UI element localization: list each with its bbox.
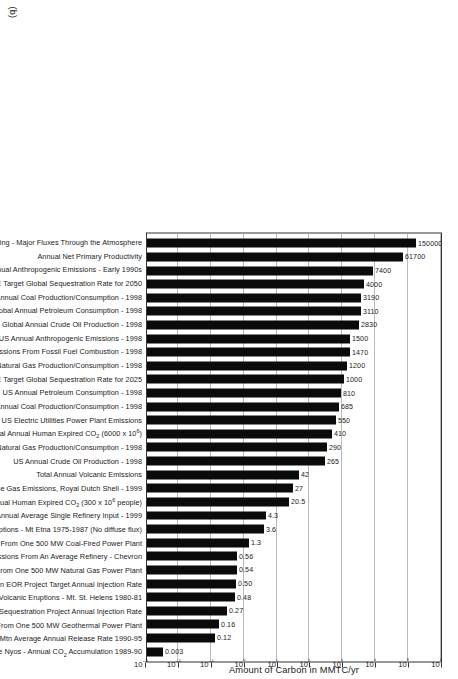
bar[interactable]: 42 [147, 470, 299, 479]
bar-value-label: 1200 [349, 361, 365, 369]
bar-slot: 265 [147, 454, 441, 468]
category-label: US Annual Crude Oil Production - 1998 [13, 456, 142, 465]
plot-area: 1500006170074004000319031102830150014701… [146, 232, 442, 662]
bar[interactable]: 0.50 [147, 579, 236, 588]
bar[interactable]: 27 [147, 483, 293, 492]
bar[interactable]: 61700 [147, 252, 403, 261]
bar-value-label: 1.3 [251, 538, 261, 546]
bar-value-label: 4.3 [269, 511, 279, 519]
bar-slot: 1500 [147, 331, 441, 345]
category-label: Weyburn EOR Project Target Annual Inject… [0, 579, 142, 588]
bar[interactable]: 0.16 [147, 619, 219, 628]
bar-value-label: 0.56 [239, 552, 253, 560]
bar[interactable]: 4000 [147, 279, 364, 288]
bar[interactable]: 1500 [147, 334, 350, 343]
bar-value-label: 150000 [418, 239, 441, 247]
category-slot: Annual Emissions From One 500 MW Geother… [3, 618, 145, 632]
bar[interactable]: 2830 [147, 320, 359, 329]
bar-slot: 290 [147, 440, 441, 454]
bar-slot: 0.54 [147, 563, 441, 577]
bar-value-label: 0.12 [217, 633, 231, 641]
category-label: US Annual Coal Production/Consumption - … [0, 401, 142, 410]
bar[interactable]: 0.56 [147, 551, 237, 560]
bar[interactable]: 290 [147, 442, 327, 451]
bar[interactable]: 3.6 [147, 524, 264, 533]
bar-value-label: 685 [341, 402, 353, 410]
bar-value-label: 1000 [346, 375, 362, 383]
category-slot: Global Annual Petroleum Consumption - 19… [3, 303, 145, 317]
category-label: Active Volcanic Eruptions - Mt Etna 1975… [0, 524, 142, 533]
category-label: US Annual Emissions From Fossil Fuel Com… [0, 347, 142, 356]
bar-slot: 1200 [147, 358, 441, 372]
bar[interactable]: 3190 [147, 293, 361, 302]
bar[interactable]: 1.3 [147, 538, 249, 547]
bar[interactable]: 685 [147, 402, 339, 411]
bar-slot: 0.50 [147, 576, 441, 590]
category-label: US DOE Target Global Sequestration Rate … [0, 278, 142, 287]
category-slot: Global Annual Coal Production/Consumptio… [3, 290, 145, 304]
category-slot: Total Annual Greenhouse Gas Emissions, R… [3, 481, 145, 495]
category-slot: Active Volcanic Eruptions - Mt Etna 1975… [3, 522, 145, 536]
category-slot: Mammoth Mtn Average Annual Release Rate … [3, 631, 145, 645]
bar-value-label: 265 [327, 457, 339, 465]
bar[interactable]: 7400 [147, 266, 373, 275]
category-slot: US Annual Crude Oil Production - 1998 [3, 454, 145, 468]
bar[interactable]: 1470 [147, 347, 350, 356]
category-label: Total Annual Greenhouse Gas Emissions, R… [0, 483, 142, 492]
bar[interactable]: 0.48 [147, 592, 235, 601]
bar-value-label: 27 [295, 484, 303, 492]
bar-value-label: 3190 [363, 293, 379, 301]
bar[interactable]: 265 [147, 456, 325, 465]
bar-slot: 1.3 [147, 535, 441, 549]
category-label: Annual Emissions From An Average Refiner… [0, 552, 142, 561]
bar[interactable]: 0.27 [147, 606, 227, 615]
axis-title: Amount of Carbon in MMTC/yr [146, 662, 442, 676]
bar-slot: 4000 [147, 277, 441, 291]
bar[interactable]: 410 [147, 429, 332, 438]
bar[interactable]: 4.3 [147, 511, 267, 520]
bar-value-label: 1470 [352, 348, 368, 356]
category-label: Annual Emissions From One 500 MW Coal-Fi… [0, 538, 142, 547]
category-label: Annual Carbon Cycling - Major Fluxes Thr… [0, 237, 142, 246]
bar-slot: 0.56 [147, 549, 441, 563]
bar-slot: 27 [147, 481, 441, 495]
bar-slot: 42 [147, 467, 441, 481]
bar-value-label: 20.5 [291, 497, 305, 505]
bar-value-label: 2830 [361, 320, 377, 328]
bar[interactable]: 1200 [147, 361, 347, 370]
bar[interactable]: 20.5 [147, 497, 289, 506]
category-slot: Annual Emissions From One 500 MW Natural… [3, 563, 145, 577]
bar[interactable]: 0.54 [147, 565, 237, 574]
axis-title-text: Amount of Carbon in MMTC/yr [229, 664, 359, 674]
category-label: Global Annual Coal Production/Consumptio… [0, 292, 142, 301]
bar[interactable]: 3110 [147, 306, 361, 315]
bar-value-label: 0.16 [221, 620, 235, 628]
category-slot: Lake Nyos - Annual CO2 Accumulation 1989… [3, 645, 145, 659]
bar-slot: 410 [147, 427, 441, 441]
bar-series: 1500006170074004000319031102830150014701… [147, 233, 441, 661]
category-label: Total Annual US Electric Utilities Power… [0, 415, 142, 424]
category-label: Global Average Annual Anthropogenic Emis… [0, 265, 142, 274]
bar[interactable]: 1000 [147, 374, 344, 383]
bar-slot: 3110 [147, 304, 441, 318]
category-label: US Annual Anthropogenic Emissions - 1998 [0, 333, 142, 342]
bar-value-label: 4000 [366, 280, 382, 288]
category-slot: Weyburn EOR Project Target Annual Inject… [3, 577, 145, 591]
bar[interactable]: 810 [147, 388, 341, 397]
category-slot: US DOE Target Global Sequestration Rate … [3, 372, 145, 386]
bar[interactable]: 150000 [147, 238, 416, 247]
category-label: US Annual Petroleum Consumption - 1998 [3, 388, 142, 397]
bar-slot: 810 [147, 386, 441, 400]
bar-value-label: 61700 [405, 252, 425, 260]
category-slot: Active Volcanic Eruptions - Mt. St. Hele… [3, 590, 145, 604]
bar[interactable]: 550 [147, 415, 336, 424]
bar-value-label: 290 [329, 443, 341, 451]
bar-slot: 150000 [147, 236, 441, 250]
bar[interactable]: 0.12 [147, 633, 215, 642]
category-label: Annual Emissions From One 500 MW Natural… [0, 565, 142, 574]
category-label: Global Annual Petroleum Consumption - 19… [0, 306, 142, 315]
bar[interactable]: 0.003 [147, 647, 163, 656]
bar-slot: 0.27 [147, 603, 441, 617]
bar-value-label: 0.54 [239, 565, 253, 573]
bar-value-label: 42 [301, 470, 309, 478]
